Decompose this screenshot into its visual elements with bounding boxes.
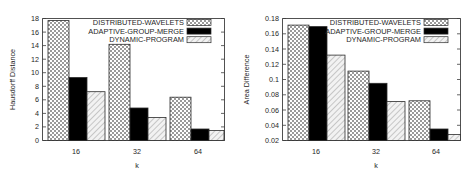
y-tick-label: 0.16 [265,29,279,38]
x-axis-ticks-area-difference: 16 32 64 [312,147,440,156]
bar-dynamic-program-16 [327,55,345,140]
legend-label-dynamic-program: DYNAMIC-PROGRAM [346,35,421,44]
x-tick-label: 64 [194,147,202,156]
bar-distributed-wavelets-16 [48,21,69,141]
bar-distributed-wavelets-64 [409,101,430,141]
chart-panel-area-difference: 0.02 0.04 0.06 0.08 0.1 0.12 0.14 0.16 0… [232,0,464,172]
figure-container: 0 2 4 6 8 10 12 14 16 18 Hausdorff Dista… [0,0,464,172]
bar-adaptive-group-merge-64 [430,129,448,141]
y-tick-label: 2 [35,122,39,131]
y-tick-label: 4 [35,109,39,118]
legend-swatch-dynamic-program [187,37,211,43]
y-tick-label: 0.08 [265,90,279,99]
hausdorff-distance-bar-chart: 0 2 4 6 8 10 12 14 16 18 Hausdorff Dista… [0,0,232,172]
legend-swatch-distributed-wavelets [424,20,448,26]
y-tick-label: 8 [35,82,39,91]
y-tick-label: 0.04 [265,121,279,130]
bar-adaptive-group-merge-32 [130,108,148,141]
bar-dynamic-program-32 [148,118,166,141]
y-tick-label: 16 [31,28,39,37]
legend-swatch-adaptive-group-merge [187,28,211,34]
bar-dynamic-program-64 [209,130,224,140]
y-axis-title: Hausdorff Distance [8,49,17,110]
legend-hausdorff: DISTRIBUTED-WAVELETS ADAPTIVE-GROUP-MERG… [88,18,211,44]
y-tick-label: 0.1 [269,75,279,84]
y-tick-label: 0 [35,136,39,145]
legend-label-dynamic-program: DYNAMIC-PROGRAM [109,35,184,44]
x-axis-title: k [135,161,139,170]
bar-dynamic-program-32 [387,102,405,141]
y-tick-label: 10 [31,68,39,77]
y-tick-label: 0.06 [265,106,279,115]
y-tick-label: 6 [35,95,39,104]
y-tick-label: 18 [31,14,39,23]
y-axis-tick-labels-hausdorff: 0 2 4 6 8 10 12 14 16 18 [31,14,39,145]
legend-swatch-dynamic-program [424,37,448,43]
bar-distributed-wavelets-16 [288,25,309,140]
legend-area-difference: DISTRIBUTED-WAVELETS ADAPTIVE-GROUP-MERG… [325,18,448,44]
area-difference-bar-chart: 0.02 0.04 0.06 0.08 0.1 0.12 0.14 0.16 0… [232,0,464,172]
y-tick-label: 0.14 [265,45,279,54]
y-tick-label: 0.02 [265,136,279,145]
legend-swatch-distributed-wavelets [187,20,211,26]
x-axis-title: k [374,161,378,170]
y-tick-label: 0.12 [265,60,279,69]
x-tick-label: 32 [372,147,380,156]
bar-adaptive-group-merge-32 [369,83,387,140]
bar-dynamic-program-16 [87,92,105,141]
x-tick-label: 64 [432,147,440,156]
x-axis-ticks-hausdorff: 16 32 64 [72,147,202,156]
bar-adaptive-group-merge-64 [191,129,209,141]
bar-dynamic-program-64 [448,134,461,140]
bar-distributed-wavelets-32 [109,44,130,140]
chart-panel-hausdorff-distance: 0 2 4 6 8 10 12 14 16 18 Hausdorff Dista… [0,0,232,172]
bar-distributed-wavelets-64 [170,97,191,140]
y-tick-label: 14 [31,41,39,50]
bar-distributed-wavelets-32 [348,71,369,140]
y-tick-label: 0.18 [265,14,279,23]
x-tick-label: 32 [133,147,141,156]
y-tick-label: 12 [31,55,39,64]
bar-adaptive-group-merge-16 [69,78,87,141]
legend-swatch-adaptive-group-merge [424,28,448,34]
y-axis-title: Area Difference [242,55,251,105]
y-axis-tick-labels-area-difference: 0.02 0.04 0.06 0.08 0.1 0.12 0.14 0.16 0… [265,14,279,145]
x-tick-label: 16 [312,147,320,156]
bar-adaptive-group-merge-16 [309,27,327,141]
x-tick-label: 16 [72,147,80,156]
